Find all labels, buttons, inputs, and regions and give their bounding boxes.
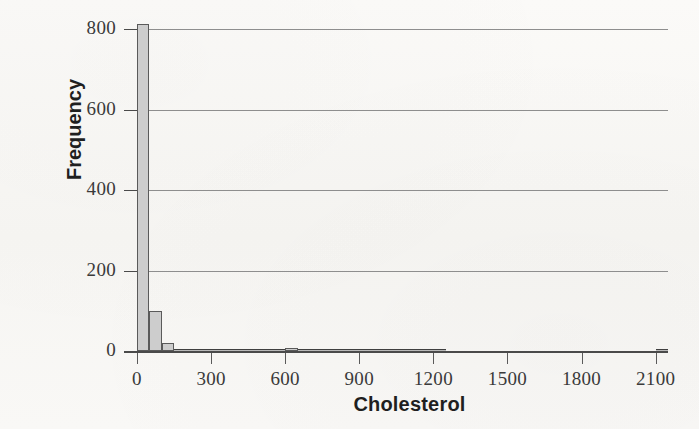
y-tick-label-200: 200	[56, 259, 116, 281]
histogram-bar	[174, 349, 186, 351]
plot-area	[137, 29, 668, 351]
histogram-bar	[137, 24, 149, 351]
x-tick-mark-1500	[507, 353, 508, 364]
x-tick-mark-1800	[582, 353, 583, 364]
x-tick-mark-300	[211, 353, 212, 364]
x-tick-label-2100: 2100	[621, 368, 691, 390]
gridline-200	[124, 271, 668, 272]
histogram-bar	[384, 349, 396, 351]
histogram-bar	[223, 349, 235, 351]
y-tick-label-0: 0	[56, 339, 116, 361]
histogram-bar	[149, 311, 161, 351]
histogram-bar	[656, 349, 668, 351]
y-tick-mark-0	[124, 351, 137, 352]
histogram-bar	[236, 349, 248, 351]
gridline-400	[124, 190, 668, 191]
y-axis-title: Frequency	[63, 50, 86, 210]
x-tick-mark-0	[137, 353, 138, 364]
x-tick-label-300: 300	[176, 368, 246, 390]
histogram-bar	[335, 349, 347, 351]
y-tick-mark-200	[124, 271, 137, 272]
histogram-bar	[310, 349, 322, 351]
histogram-bar	[248, 349, 260, 351]
histogram-figure: 8006004002000 03006009001200150018002100…	[0, 0, 699, 429]
histogram-bar	[359, 349, 371, 351]
x-tick-label-900: 900	[324, 368, 394, 390]
x-tick-label-1800: 1800	[547, 368, 617, 390]
x-axis-title: Cholesterol	[0, 393, 699, 416]
histogram-bar	[186, 349, 198, 351]
x-tick-label-1200: 1200	[398, 368, 468, 390]
y-tick-mark-800	[124, 29, 137, 30]
histogram-bar	[396, 349, 408, 351]
histogram-bar	[285, 348, 297, 351]
histogram-bar	[162, 343, 174, 351]
histogram-bar	[273, 349, 285, 351]
x-tick-label-0: 0	[102, 368, 172, 390]
histogram-bar	[421, 349, 433, 351]
x-tick-mark-2100	[656, 353, 657, 364]
x-tick-mark-600	[285, 353, 286, 364]
y-tick-mark-600	[124, 110, 137, 111]
histogram-bar	[199, 349, 211, 351]
gridline-0	[124, 351, 668, 353]
histogram-bar	[347, 349, 359, 351]
histogram-bar	[433, 349, 445, 351]
y-tick-mark-400	[124, 190, 137, 191]
histogram-bar	[211, 349, 223, 351]
x-tick-mark-900	[359, 353, 360, 364]
x-tick-label-600: 600	[250, 368, 320, 390]
y-tick-label-800: 800	[56, 17, 116, 39]
gridline-800	[124, 29, 668, 30]
histogram-bar	[409, 349, 421, 351]
x-tick-label-1500: 1500	[472, 368, 542, 390]
histogram-bar	[298, 349, 310, 351]
gridline-600	[124, 110, 668, 111]
histogram-bar	[260, 349, 272, 351]
histogram-bar	[372, 349, 384, 351]
x-tick-mark-1200	[433, 353, 434, 364]
histogram-bar	[322, 349, 334, 351]
